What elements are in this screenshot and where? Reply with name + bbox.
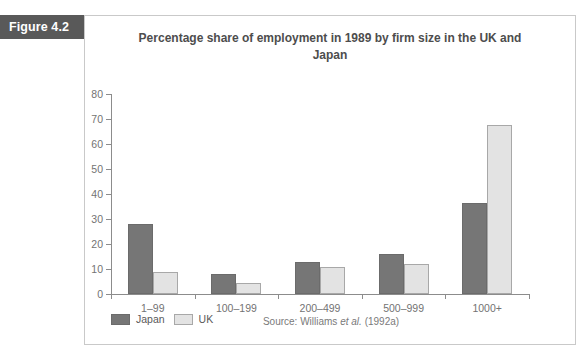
x-axis-tick-label: 100–199 — [216, 302, 257, 314]
y-axis-tick — [106, 119, 111, 120]
x-axis-tick — [362, 294, 363, 299]
y-axis-tick-label: 30 — [91, 213, 103, 225]
x-axis-tick — [195, 294, 196, 299]
x-axis-tick-label: 200–499 — [300, 302, 341, 314]
figure-number-banner: Figure 4.2 — [0, 15, 84, 39]
bar-japan-2 — [295, 262, 320, 295]
y-axis-tick-label: 70 — [91, 113, 103, 125]
source-note: Source: Williams et al. (1992a) — [85, 316, 577, 327]
x-axis-tick — [278, 294, 279, 299]
figure-number-label: Figure 4.2 — [9, 20, 69, 34]
y-axis-tick — [106, 194, 111, 195]
source-author: Williams — [300, 316, 337, 327]
source-prefix: Source: — [263, 316, 297, 327]
y-axis-line — [111, 94, 112, 295]
chart-title: Percentage share of employment in 1989 b… — [125, 30, 535, 64]
y-axis-tick-label: 50 — [91, 163, 103, 175]
source-etal: et al. — [340, 316, 362, 327]
x-axis-line — [111, 294, 529, 295]
bar-japan-0 — [128, 224, 153, 294]
bar-japan-4 — [462, 203, 487, 294]
y-axis-tick — [106, 244, 111, 245]
x-axis-tick-label: 500–999 — [383, 302, 424, 314]
y-axis-tick — [106, 144, 111, 145]
bar-japan-1 — [211, 274, 236, 294]
figure-root: Figure 4.2 Percentage share of employmen… — [0, 0, 588, 362]
y-axis-tick-label: 80 — [91, 88, 103, 100]
bar-uk-3 — [404, 264, 429, 294]
x-axis-tick-label: 1000+ — [472, 302, 502, 314]
y-axis-tick-label: 40 — [91, 188, 103, 200]
y-axis-tick-label: 0 — [97, 288, 103, 300]
bar-uk-1 — [236, 283, 261, 294]
x-axis-tick — [529, 294, 530, 299]
y-axis-tick — [106, 94, 111, 95]
y-axis-tick-label: 20 — [91, 238, 103, 250]
y-axis-tick — [106, 269, 111, 270]
x-axis-tick — [445, 294, 446, 299]
chart-panel: Percentage share of employment in 1989 b… — [84, 15, 576, 345]
plot-area: 01020304050607080 1–99100–199200–499500–… — [111, 94, 529, 294]
y-axis-tick — [106, 169, 111, 170]
y-axis-tick-label: 60 — [91, 138, 103, 150]
y-axis-tick — [106, 219, 111, 220]
bar-uk-0 — [153, 272, 178, 295]
bar-uk-4 — [487, 125, 512, 294]
bar-japan-3 — [379, 254, 404, 294]
source-year: (1992a) — [365, 316, 399, 327]
bar-uk-2 — [320, 267, 345, 295]
x-axis-tick — [111, 294, 112, 299]
y-axis-tick-label: 10 — [91, 263, 103, 275]
